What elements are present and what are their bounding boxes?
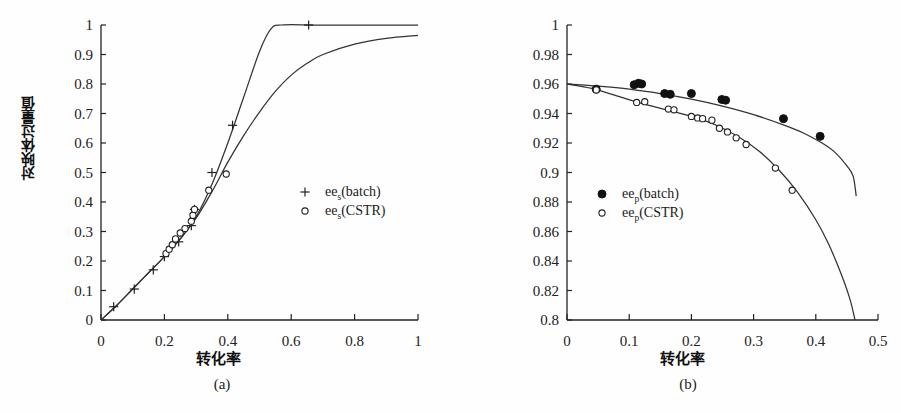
subfigure-caption-a: (a) <box>214 376 231 393</box>
panel-b: 对映体过量值 0.80.820.840.860.880.90.920.940.9… <box>450 0 901 413</box>
data-point-open-circle <box>599 210 605 216</box>
y-tick-label: 0.86 <box>533 224 560 240</box>
y-tick-label: 0.9 <box>74 47 93 63</box>
legend-item: ees(batch) <box>300 184 381 202</box>
x-axis-label-panel-b: 转化率 <box>660 350 705 368</box>
plot-area-panel-a: 00.10.20.30.40.50.60.70.80.9100.20.40.60… <box>0 0 450 413</box>
plot-area-panel-b: 0.80.820.840.860.880.90.920.940.960.9810… <box>450 0 901 413</box>
data-point-open-circle <box>593 87 599 93</box>
y-tick-label: 0.9 <box>540 165 559 181</box>
legend-panel-b: eep(batch)eep(CSTR) <box>598 186 684 223</box>
data-point-open-circle <box>188 218 194 224</box>
x-tick-label: 0.5 <box>869 333 888 349</box>
data-point-open-circle <box>724 129 730 135</box>
data-point-filled-circle <box>816 132 824 140</box>
data-point-open-circle <box>206 187 212 193</box>
y-tick-label: 0 <box>86 312 94 328</box>
data-point-plus <box>149 265 158 274</box>
data-point-filled-circle <box>666 90 674 98</box>
x-tick-label: 0.4 <box>806 333 825 349</box>
y-tick-label: 0.8 <box>74 76 93 92</box>
y-tick-group: 0.80.820.840.860.880.90.920.940.960.981 <box>533 17 572 328</box>
model-curve-cstr-model <box>101 35 418 320</box>
data-point-filled-circle <box>687 90 695 98</box>
axes-group <box>567 25 878 320</box>
legend-label: eep(CSTR) <box>622 205 684 223</box>
series-ee_s(batch) <box>109 20 313 311</box>
x-tick-label: 0.3 <box>744 333 763 349</box>
x-tick-label: 0.8 <box>345 333 364 349</box>
x-tick-label: 0.4 <box>218 333 237 349</box>
data-point-plus <box>304 20 313 29</box>
y-tick-label: 0.7 <box>74 106 93 122</box>
data-point-open-circle <box>789 187 795 193</box>
y-tick-label: 0.96 <box>533 76 560 92</box>
y-tick-label: 0.8 <box>540 312 559 328</box>
y-tick-label: 0.5 <box>74 165 93 181</box>
x-tick-group: 00.20.40.60.81 <box>97 314 422 349</box>
y-tick-label: 0.1 <box>74 283 93 299</box>
legend-panel-a: ees(batch)ees(CSTR) <box>300 184 385 221</box>
data-point-open-circle <box>634 99 640 105</box>
y-tick-label: 0.2 <box>74 253 93 269</box>
data-point-open-circle <box>172 236 178 242</box>
model-curve-batch-model <box>567 84 856 196</box>
data-point-open-circle <box>772 165 778 171</box>
model-curves-group <box>101 25 418 320</box>
legend-item: ees(CSTR) <box>302 203 386 221</box>
y-tick-label: 0.6 <box>74 135 93 151</box>
data-point-open-circle <box>182 225 188 231</box>
x-tick-group: 00.10.20.30.40.5 <box>563 314 887 349</box>
data-point-plus <box>109 302 118 311</box>
x-tick-label: 0 <box>563 333 571 349</box>
model-curve-batch-model <box>101 25 418 320</box>
data-point-open-circle <box>688 113 694 119</box>
data-point-filled-circle <box>598 190 606 198</box>
series-ee_s(CSTR) <box>163 171 229 257</box>
legend-label: ees(CSTR) <box>325 203 386 221</box>
legend-item: eep(CSTR) <box>599 205 684 223</box>
data-point-open-circle <box>642 99 648 105</box>
data-point-open-circle <box>743 141 749 147</box>
y-tick-label: 1 <box>552 17 560 33</box>
data-point-open-circle <box>671 107 677 113</box>
data-point-open-circle <box>191 206 197 212</box>
y-tick-label: 0.84 <box>533 253 560 269</box>
legend-label: eep(batch) <box>622 186 679 204</box>
data-point-plus <box>130 284 139 293</box>
data-point-open-circle <box>733 135 739 141</box>
y-tick-label: 1 <box>86 17 94 33</box>
data-point-plus <box>300 187 309 196</box>
subfigure-caption-b: (b) <box>679 376 697 393</box>
data-point-open-circle <box>716 125 722 131</box>
data-point-open-circle <box>302 208 308 214</box>
data-point-filled-circle <box>722 96 730 104</box>
data-point-open-circle <box>699 116 705 122</box>
figure-container: 对映体过量值 00.10.20.30.40.50.60.70.80.9100.2… <box>0 0 901 413</box>
panel-a: 对映体过量值 00.10.20.30.40.50.60.70.80.9100.2… <box>0 0 450 413</box>
legend-label: ees(batch) <box>325 184 381 202</box>
x-tick-label: 0 <box>97 333 105 349</box>
y-tick-label: 0.3 <box>74 224 93 240</box>
data-point-open-circle <box>190 212 196 218</box>
series-ee_p(CSTR) <box>593 87 795 193</box>
y-tick-label: 0.88 <box>533 194 559 210</box>
data-point-open-circle <box>223 171 229 177</box>
x-axis-label-panel-a: 转化率 <box>196 350 241 368</box>
x-tick-label: 0.1 <box>620 333 639 349</box>
axes-group <box>101 25 418 320</box>
y-tick-label: 0.82 <box>533 283 559 299</box>
y-tick-label: 0.92 <box>533 135 559 151</box>
y-tick-label: 0.94 <box>533 106 560 122</box>
x-tick-label: 0.6 <box>282 333 301 349</box>
x-tick-label: 0.2 <box>682 333 701 349</box>
data-point-open-circle <box>709 117 715 123</box>
x-tick-label: 0.2 <box>155 333 174 349</box>
data-point-filled-circle <box>638 80 646 88</box>
y-tick-label: 0.98 <box>533 47 559 63</box>
data-point-open-circle <box>169 242 175 248</box>
x-tick-label: 1 <box>414 333 422 349</box>
data-point-filled-circle <box>779 115 787 123</box>
legend-item: eep(batch) <box>598 186 679 204</box>
y-tick-label: 0.4 <box>74 194 93 210</box>
